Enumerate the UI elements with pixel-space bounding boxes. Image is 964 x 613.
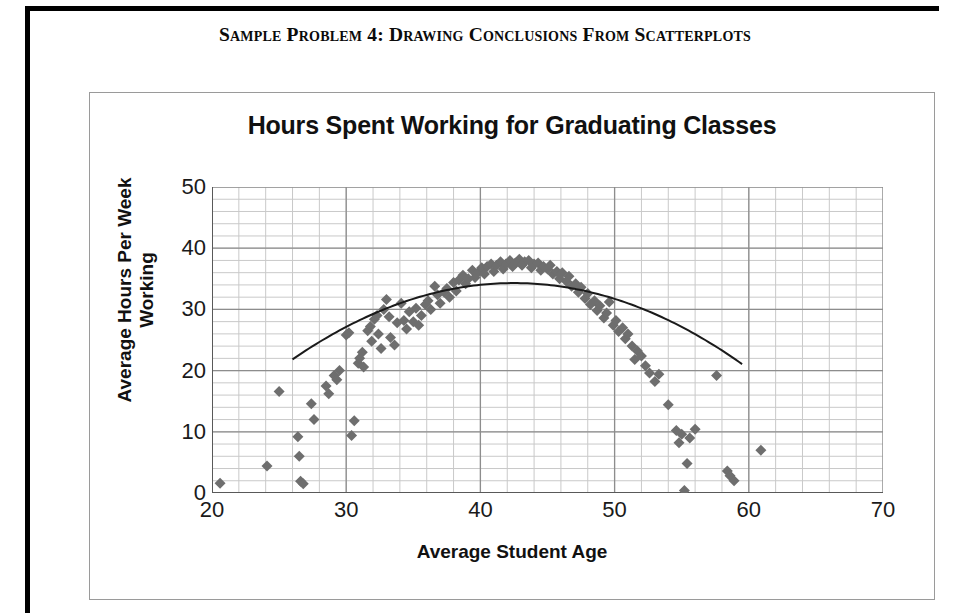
data-point	[711, 370, 722, 381]
data-point	[429, 281, 440, 292]
major-gridlines	[212, 187, 883, 493]
y-axis-tick: 10	[160, 419, 206, 445]
page-border-top	[25, 6, 939, 11]
x-axis-tick: 40	[450, 497, 510, 523]
data-point	[349, 415, 360, 426]
data-point	[674, 437, 685, 448]
x-axis-tick: 50	[585, 497, 645, 523]
data-point	[682, 458, 693, 469]
data-point	[294, 451, 305, 462]
minor-gridlines	[212, 187, 883, 493]
y-axis-tick: 40	[160, 235, 206, 261]
data-point	[381, 294, 392, 305]
x-axis-title: Average Student Age	[90, 541, 934, 563]
page-root: Sample Problem 4: Drawing Conclusions Fr…	[0, 0, 964, 613]
data-points	[215, 254, 767, 493]
data-point	[679, 485, 690, 493]
data-point	[215, 478, 226, 489]
chart-title: Hours Spent Working for Graduating Class…	[90, 111, 934, 140]
page-border-left	[25, 6, 30, 613]
plot-area	[212, 187, 883, 493]
section-header: Sample Problem 4: Drawing Conclusions Fr…	[55, 18, 915, 52]
data-point	[755, 445, 766, 456]
data-point	[373, 328, 384, 339]
x-axis-tick: 20	[182, 497, 242, 523]
data-point	[366, 336, 377, 347]
scatter-plot-svg	[212, 187, 883, 493]
data-point	[663, 399, 674, 410]
section-header-text: Sample Problem 4: Drawing Conclusions Fr…	[219, 24, 751, 46]
data-point	[690, 424, 701, 435]
x-axis-tick: 60	[719, 497, 779, 523]
y-axis-tick-labels: 01020304050	[146, 187, 206, 493]
y-axis-tick: 50	[160, 174, 206, 200]
data-point	[401, 323, 412, 334]
data-point	[376, 343, 387, 354]
data-point	[292, 431, 303, 442]
x-axis-tick-labels: 203040506070	[212, 497, 883, 529]
y-axis-tick: 30	[160, 296, 206, 322]
data-point	[262, 461, 273, 472]
x-axis-tick: 30	[316, 497, 376, 523]
x-axis-tick: 70	[853, 497, 913, 523]
data-point	[308, 414, 319, 425]
chart-container: Hours Spent Working for Graduating Class…	[89, 92, 935, 600]
data-point	[435, 298, 446, 309]
y-axis-tick: 20	[160, 358, 206, 384]
